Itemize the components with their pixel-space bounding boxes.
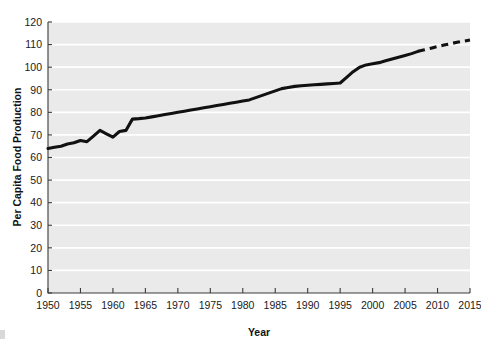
- x-tick-label-2000: 2000: [361, 299, 385, 311]
- x-tick-label-1985: 1985: [264, 299, 288, 311]
- x-tick-label-1950: 1950: [36, 299, 60, 311]
- y-tick-label-60: 60: [30, 151, 42, 163]
- y-axis-title: Per Capita Food Production: [11, 88, 23, 227]
- x-tick-label-1995: 1995: [328, 299, 352, 311]
- x-tick-label-1980: 1980: [231, 299, 255, 311]
- y-tick-label-50: 50: [30, 174, 42, 186]
- x-tick-label-1955: 1955: [69, 299, 93, 311]
- y-tick-label-0: 0: [36, 287, 42, 299]
- x-tick-label-1990: 1990: [296, 299, 320, 311]
- y-tick-label-20: 20: [30, 242, 42, 254]
- y-tick-label-100: 100: [24, 61, 42, 73]
- y-tick-label-90: 90: [30, 84, 42, 96]
- y-tick-label-30: 30: [30, 219, 42, 231]
- x-tick-label-1975: 1975: [199, 299, 223, 311]
- y-tick-label-80: 80: [30, 106, 42, 118]
- y-tick-label-40: 40: [30, 196, 42, 208]
- food-production-line-chart: 0102030405060708090100110120 19501955196…: [0, 0, 481, 346]
- y-tick-label-120: 120: [24, 16, 42, 28]
- x-tick-label-1965: 1965: [134, 299, 158, 311]
- y-tick-label-70: 70: [30, 129, 42, 141]
- page-corner-mark: [0, 330, 5, 339]
- x-tick-label-2015: 2015: [458, 299, 481, 311]
- x-tick-label-2010: 2010: [426, 299, 450, 311]
- y-tick-label-10: 10: [30, 264, 42, 276]
- x-tick-label-1960: 1960: [101, 299, 125, 311]
- x-axis-title: Year: [248, 326, 270, 338]
- y-tick-label-110: 110: [25, 38, 42, 50]
- x-tick-label-2005: 2005: [393, 299, 417, 311]
- chart-container: 0102030405060708090100110120 19501955196…: [0, 0, 481, 346]
- x-tick-label-1970: 1970: [166, 299, 190, 311]
